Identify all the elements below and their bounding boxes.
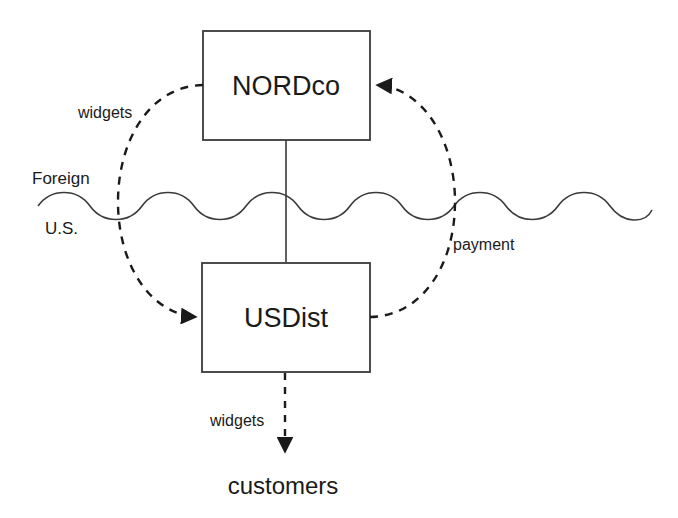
node-customers-label: customers (228, 472, 339, 499)
region-label-foreign: Foreign (32, 169, 90, 188)
edge-payment-usdist-to-nordco (370, 85, 455, 317)
region-label-us: U.S. (45, 219, 78, 238)
edge-label-widgets-upper: widgets (77, 104, 132, 121)
edge-label-payment: payment (453, 236, 515, 253)
node-usdist-label: USDist (244, 303, 329, 333)
edge-label-widgets-lower: widgets (209, 412, 264, 429)
flow-diagram: NORDco USDist widgets payment widgets Fo… (0, 0, 678, 518)
node-nordco-label: NORDco (232, 71, 340, 101)
national-border-wavy-line (38, 193, 652, 221)
diagram-canvas: NORDco USDist widgets payment widgets Fo… (0, 0, 678, 518)
